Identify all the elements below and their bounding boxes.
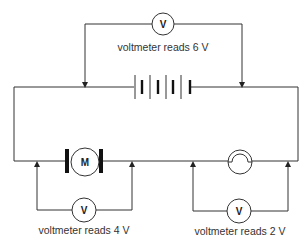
- voltmeter-top-caption: voltmeter reads 6 V: [117, 41, 208, 53]
- motor-icon: M: [65, 148, 103, 176]
- voltmeter-motor-caption: voltmeter reads 4 V: [38, 224, 129, 236]
- motor-symbol: M: [81, 157, 89, 168]
- voltmeter-symbol: V: [160, 19, 167, 30]
- main-circuit-wires: [14, 87, 298, 161]
- circuit-diagram: M V voltmeter reads 6 V V voltmeter read…: [0, 0, 306, 244]
- voltmeter-lamp-caption: voltmeter reads 2 V: [194, 225, 285, 237]
- voltmeter-symbol: V: [81, 205, 88, 216]
- voltmeter-top: V voltmeter reads 6 V: [82, 13, 245, 88]
- voltmeter-symbol: V: [236, 206, 243, 217]
- battery-icon: [135, 75, 190, 99]
- lamp-icon: [228, 150, 252, 174]
